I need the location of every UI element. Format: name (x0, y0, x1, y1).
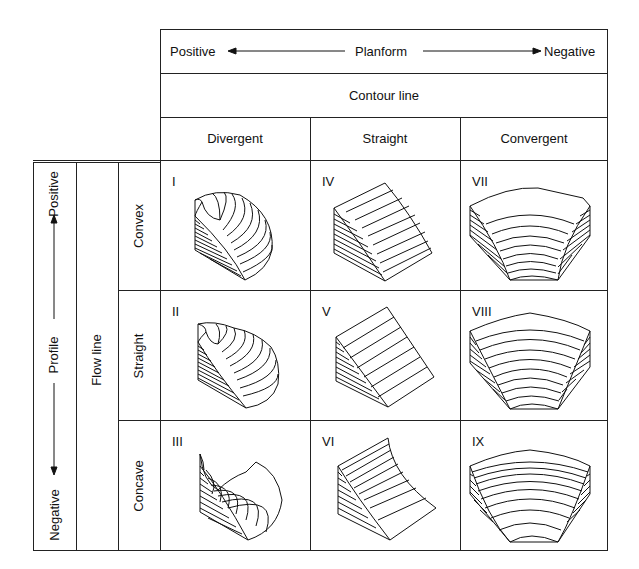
grid-row-line-2 (118, 420, 608, 421)
row-header-convex: Convex (131, 191, 147, 261)
flow-line-label: Flow line (89, 325, 105, 395)
row-header-concave: Concave (131, 451, 147, 521)
grid-col-line-main (160, 29, 161, 551)
landform-divergent-straight-icon (196, 322, 288, 410)
grid-row-line-0 (33, 160, 608, 161)
grid-border-right (607, 29, 608, 551)
grid-row-line-1 (118, 290, 608, 291)
left-border-top (33, 162, 160, 163)
cell-label-VII: VII (472, 174, 488, 189)
landform-straight-concave-icon (336, 436, 436, 542)
cell-label-II: II (172, 304, 179, 319)
column-header-convergent: Convergent (460, 131, 608, 146)
cell-label-V: V (322, 304, 331, 319)
planform-arrow-left-icon (228, 45, 348, 57)
cell-label-III: III (172, 434, 183, 449)
cell-label-I: I (172, 174, 176, 189)
landform-divergent-concave-icon (198, 452, 290, 542)
landform-convergent-convex-icon (468, 188, 594, 286)
cell-label-VI: VI (322, 434, 334, 449)
planform-arrow-right-icon (423, 45, 543, 57)
landform-straight-convex-icon (330, 178, 442, 282)
planform-label: Planform (355, 44, 407, 59)
landform-straight-straight-icon (334, 305, 434, 409)
column-header-straight: Straight (310, 131, 460, 146)
profile-arrow-up-icon (49, 215, 59, 319)
cell-label-IX: IX (472, 434, 484, 449)
grid-border-bottom (33, 550, 608, 551)
contour-line-label: Contour line (160, 88, 608, 103)
grid-col-line-2 (460, 117, 461, 551)
header-divider-1 (160, 73, 608, 74)
profile-negative-label: Negative (47, 480, 63, 550)
planform-negative-label: Negative (544, 44, 595, 59)
profile-arrow-down-icon (49, 383, 59, 475)
grid-col-line-1 (310, 117, 311, 551)
left-col-line-2 (118, 162, 119, 551)
left-col-line-1 (76, 162, 77, 551)
landform-convergent-straight-icon (468, 313, 594, 413)
column-header-divergent: Divergent (160, 131, 310, 146)
landform-divergent-convex-icon (190, 190, 290, 282)
header-divider-2 (160, 117, 608, 118)
header-border-top (160, 29, 608, 30)
profile-label: Profile (46, 325, 62, 385)
planform-positive-label: Positive (170, 44, 216, 59)
left-border (33, 162, 34, 551)
landform-convergent-concave-icon (468, 448, 594, 544)
row-header-straight: Straight (131, 321, 147, 391)
